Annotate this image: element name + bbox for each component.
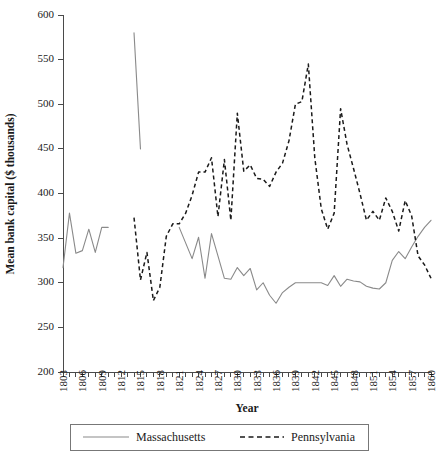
y-tick-label: 450 bbox=[38, 141, 55, 153]
line-chart-canvas: 200250300350400450500550600 180318061809… bbox=[0, 0, 437, 456]
data-series-group bbox=[63, 33, 431, 303]
y-axis-title: Mean bank capital ($ thousands) bbox=[4, 113, 17, 274]
x-tick-label: 1851 bbox=[367, 370, 379, 392]
y-tick-label: 500 bbox=[38, 97, 55, 109]
x-tick-label: 1848 bbox=[348, 370, 360, 393]
x-tick-label: 1839 bbox=[289, 370, 301, 393]
y-tick-label: 300 bbox=[38, 275, 55, 287]
x-tick-label: 1854 bbox=[386, 370, 398, 393]
y-tick-group: 200250300350400450500550600 bbox=[38, 8, 64, 377]
y-tick-label: 250 bbox=[38, 320, 55, 332]
y-tick-label: 200 bbox=[38, 365, 55, 377]
x-tick-label: 1842 bbox=[309, 370, 321, 392]
series-line-massachusetts-0 bbox=[63, 213, 108, 267]
legend-entry-massachusetts: Massachusetts bbox=[83, 430, 206, 444]
legend-entry-pennsylvania: Pennsylvania bbox=[240, 430, 356, 444]
y-tick-label: 550 bbox=[38, 52, 55, 64]
x-tick-label: 1809 bbox=[96, 370, 108, 393]
x-axis-title: Year bbox=[236, 402, 259, 414]
y-tick-label: 350 bbox=[38, 231, 55, 243]
series-line-massachusetts-2 bbox=[179, 220, 431, 303]
y-axis: 200250300350400450500550600 bbox=[38, 8, 64, 377]
x-tick-label: 1830 bbox=[231, 370, 243, 393]
x-axis: 1803180618091812181518181821182418271830… bbox=[57, 370, 437, 393]
series-line-massachusetts-1 bbox=[134, 33, 140, 149]
x-tick-group: 1803180618091812181518181821182418271830… bbox=[57, 370, 437, 393]
x-tick-label: 1803 bbox=[57, 370, 69, 393]
x-tick-label: 1806 bbox=[76, 370, 88, 393]
legend: Massachusetts Pennsylvania bbox=[70, 424, 368, 450]
x-tick-label: 1815 bbox=[134, 370, 146, 393]
x-tick-label: 1845 bbox=[328, 370, 340, 393]
x-tick-label: 1833 bbox=[251, 370, 263, 393]
x-tick-label: 1827 bbox=[212, 370, 224, 393]
chart-figure: 200250300350400450500550600 180318061809… bbox=[0, 0, 437, 456]
x-tick-label: 1818 bbox=[154, 370, 166, 393]
y-tick-label: 400 bbox=[38, 186, 55, 198]
x-tick-label: 1836 bbox=[270, 370, 282, 393]
x-tick-label: 1821 bbox=[173, 370, 185, 392]
series-line-pennsylvania-0 bbox=[134, 64, 431, 301]
x-tick-label: 1860 bbox=[425, 370, 437, 393]
x-tick-label: 1857 bbox=[406, 370, 418, 393]
legend-label-massachusetts: Massachusetts bbox=[136, 430, 206, 444]
y-tick-label: 600 bbox=[38, 8, 55, 20]
x-tick-label: 1824 bbox=[193, 370, 205, 393]
legend-label-pennsylvania: Pennsylvania bbox=[291, 430, 356, 444]
x-tick-label: 1812 bbox=[115, 370, 127, 392]
